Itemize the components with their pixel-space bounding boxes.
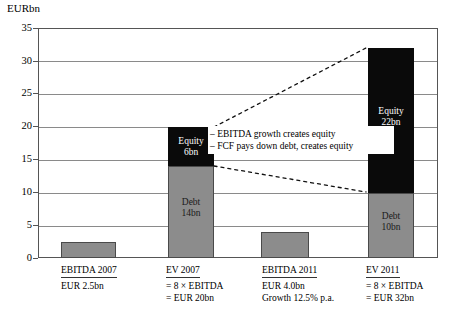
bar-ebitda-2007[interactable] [61,242,116,258]
ev-2011-equity-label-name: Equity [369,106,413,117]
caption-ebitda-2011: EBITDA 2011 EUR 4.0bn Growth 12.5% p.a. [262,264,334,304]
y-tick-label-20: 20 [2,121,32,131]
y-tick-label-10: 10 [2,187,32,197]
caption-ev-2007-title: EV 2007 [166,264,200,278]
y-tick-label-0: 0 [2,253,32,263]
annotation-box: – EBITDA growth creates equity – FCF pay… [208,126,394,154]
caption-ebitda-2011-title: EBITDA 2011 [262,264,317,278]
annotation-line-1: – EBITDA growth creates equity [208,128,394,140]
caption-ebitda-2007-title: EBITDA 2007 [61,264,117,278]
caption-ev-2007-sub1: = 8 × EBITDA [166,280,223,292]
y-tick-mark-0 [33,258,38,259]
caption-ebitda-2011-sub1: EUR 4.0bn [262,280,334,292]
y-axis-title: EURbn [7,2,40,15]
ev-2007-debt-label-name: Debt [169,197,213,208]
caption-ebitda-2007-sub1: EUR 2.5bn [61,280,117,292]
annotation-line-2: – FCF pays down debt, creates equity [208,140,394,152]
y-tick-label-30: 30 [2,56,32,66]
y-tick-label-25: 25 [2,88,32,98]
bar-ev-2011-equity-segment[interactable]: Equity 22bn [368,48,414,193]
caption-ev-2007-sub2: = EUR 20bn [166,292,223,304]
ev-2007-equity-label-name: Equity [169,136,213,147]
bar-ebitda-2011[interactable] [261,232,309,258]
caption-ev-2011-title: EV 2011 [366,264,400,278]
bar-ev-2011-debt-segment[interactable]: Debt 10bn [368,193,414,258]
chart-container: EURbn 35 30 25 20 15 10 5 0 Debt 14bn [0,0,450,314]
bar-ev-2007-debt-segment[interactable]: Debt 14bn [168,166,214,258]
ev-2011-debt-label-name: Debt [369,211,413,222]
ev-2011-debt-label-value: 10bn [369,222,413,233]
y-tick-label-15: 15 [2,154,32,164]
caption-ebitda-2011-sub2: Growth 12.5% p.a. [262,292,334,304]
y-tick-label-35: 35 [2,23,32,33]
ev-2007-equity-label-value: 6bn [169,147,213,158]
ev-2007-debt-label-value: 14bn [169,208,213,219]
y-tick-label-5: 5 [2,220,32,230]
caption-ev-2011-sub2: = EUR 32bn [366,292,423,304]
caption-ev-2011-sub1: = 8 × EBITDA [366,280,423,292]
caption-ebitda-2007: EBITDA 2007 EUR 2.5bn [61,264,117,292]
caption-ev-2011: EV 2011 = 8 × EBITDA = EUR 32bn [366,264,423,304]
caption-ev-2007: EV 2007 = 8 × EBITDA = EUR 20bn [166,264,223,304]
